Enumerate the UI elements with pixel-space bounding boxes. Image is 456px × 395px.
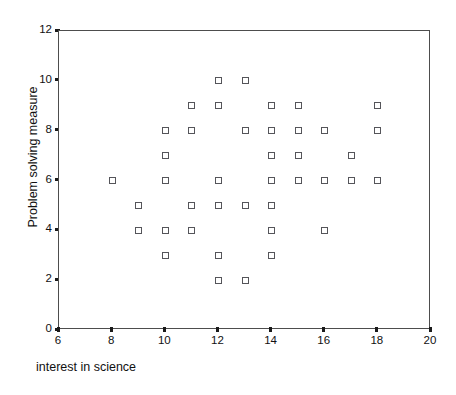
- data-point: [268, 102, 275, 109]
- plot-area: [58, 30, 430, 329]
- x-axis-tick: [429, 327, 432, 332]
- data-point: [321, 227, 328, 234]
- data-point: [162, 152, 169, 159]
- data-point: [162, 127, 169, 134]
- x-axis-tick: [216, 327, 219, 332]
- data-point: [295, 177, 302, 184]
- data-point: [295, 127, 302, 134]
- y-axis-tick-label: 12: [26, 24, 52, 36]
- x-axis-tick-label: 12: [202, 334, 232, 346]
- data-point: [242, 77, 249, 84]
- data-point: [321, 177, 328, 184]
- data-point: [374, 102, 381, 109]
- y-axis-tick-label: 0: [26, 323, 52, 335]
- data-point: [215, 202, 222, 209]
- data-point: [242, 202, 249, 209]
- data-point: [188, 202, 195, 209]
- data-point: [162, 227, 169, 234]
- data-point: [188, 127, 195, 134]
- x-axis-tick-label: 6: [43, 334, 73, 346]
- x-axis-tick-label: 8: [96, 334, 126, 346]
- data-point: [268, 227, 275, 234]
- data-point: [242, 127, 249, 134]
- data-point: [268, 152, 275, 159]
- data-point: [188, 227, 195, 234]
- data-point: [135, 227, 142, 234]
- data-point: [295, 102, 302, 109]
- data-point: [162, 252, 169, 259]
- x-axis-tick: [163, 327, 166, 332]
- data-point: [188, 102, 195, 109]
- data-point: [374, 127, 381, 134]
- x-axis-tick-label: 20: [415, 334, 445, 346]
- data-point: [348, 152, 355, 159]
- data-point: [109, 177, 116, 184]
- x-axis-tick: [375, 327, 378, 332]
- data-point: [348, 177, 355, 184]
- scatter-plot-figure: Problem solving measure 024681012 681012…: [0, 0, 456, 395]
- x-axis-tick-label: 10: [149, 334, 179, 346]
- y-axis-tick-label: 8: [26, 124, 52, 136]
- x-axis-tick: [110, 327, 113, 332]
- data-point: [162, 177, 169, 184]
- data-point: [268, 127, 275, 134]
- y-axis-tick-label: 4: [26, 223, 52, 235]
- x-axis-tick-label: 18: [362, 334, 392, 346]
- x-axis-tick: [57, 327, 60, 332]
- data-point: [215, 277, 222, 284]
- data-point: [321, 127, 328, 134]
- x-axis-tick: [269, 327, 272, 332]
- data-point: [295, 152, 302, 159]
- data-point: [215, 252, 222, 259]
- data-point: [268, 177, 275, 184]
- x-axis-tick: [322, 327, 325, 332]
- data-point: [215, 177, 222, 184]
- x-axis-tick-label: 16: [309, 334, 339, 346]
- y-axis-tick-label: 6: [26, 174, 52, 186]
- data-point: [242, 277, 249, 284]
- y-axis-tick-label: 10: [26, 74, 52, 86]
- y-axis-tick-label: 2: [26, 273, 52, 285]
- x-axis-tick-label: 14: [256, 334, 286, 346]
- data-point: [374, 177, 381, 184]
- data-point: [268, 202, 275, 209]
- y-axis-title-holder: Problem solving measure: [0, 0, 1, 1]
- data-point: [215, 77, 222, 84]
- data-point: [135, 202, 142, 209]
- data-point: [215, 102, 222, 109]
- x-axis-title: interest in science: [36, 360, 136, 374]
- data-point: [268, 252, 275, 259]
